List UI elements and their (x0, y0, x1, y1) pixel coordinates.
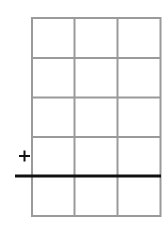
grid-border (32, 18, 161, 216)
column-addition-grid (0, 0, 168, 232)
grid-lines (32, 18, 161, 216)
plus-sign-icon (19, 151, 30, 162)
